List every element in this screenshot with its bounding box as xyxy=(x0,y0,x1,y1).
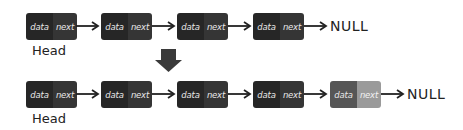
head-label: Head xyxy=(32,112,66,125)
pointer-arrow-icon xyxy=(304,89,328,99)
pointer-arrow-icon xyxy=(228,21,252,31)
pointer-arrow-icon xyxy=(152,89,176,99)
list-node: data next xyxy=(253,81,304,108)
node-data-cell: data xyxy=(253,81,280,108)
node-next-cell: next xyxy=(204,13,228,40)
node-data-cell: data xyxy=(101,13,128,40)
list-node: data next xyxy=(177,81,228,108)
node-next-cell: next xyxy=(128,81,152,108)
pointer-arrow-icon xyxy=(381,89,405,99)
node-next-cell: next xyxy=(204,81,228,108)
node-next-cell: next xyxy=(53,81,77,108)
pointer-arrow-icon xyxy=(228,89,252,99)
new-list-node: data next xyxy=(330,81,381,108)
node-data-cell: data xyxy=(177,13,204,40)
list-node: data next xyxy=(177,13,228,40)
null-terminator: NULL xyxy=(407,87,445,101)
node-next-cell: next xyxy=(53,13,77,40)
node-data-cell: data xyxy=(101,81,128,108)
node-next-cell: next xyxy=(128,13,152,40)
list-node: data next xyxy=(101,13,152,40)
node-data-cell: data xyxy=(26,13,53,40)
down-arrow-icon xyxy=(155,49,183,77)
list-node: data next xyxy=(101,81,152,108)
node-next-cell: next xyxy=(280,81,304,108)
pointer-arrow-icon xyxy=(152,21,176,31)
node-data-cell: data xyxy=(330,81,357,108)
list-node: data next xyxy=(26,81,77,108)
list-node: data next xyxy=(26,13,77,40)
node-data-cell: data xyxy=(253,13,280,40)
null-terminator: NULL xyxy=(330,19,368,33)
pointer-arrow-icon xyxy=(304,21,328,31)
node-next-cell: next xyxy=(280,13,304,40)
list-node: data next xyxy=(253,13,304,40)
node-data-cell: data xyxy=(26,81,53,108)
pointer-arrow-icon xyxy=(76,21,100,31)
node-next-cell: next xyxy=(357,81,381,108)
pointer-arrow-icon xyxy=(76,89,100,99)
head-label: Head xyxy=(32,44,66,57)
node-data-cell: data xyxy=(177,81,204,108)
